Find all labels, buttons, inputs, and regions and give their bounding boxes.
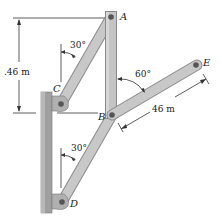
inclined-dimension-label: 46 m	[152, 104, 175, 114]
linkage-diagram: .46 m	[0, 0, 222, 221]
pin-c	[58, 101, 64, 107]
vertical-dimension	[17, 19, 21, 112]
angle-label-lower-30: 30°	[71, 143, 87, 153]
angle-label-upper-30: 30°	[70, 40, 86, 50]
pin-b	[109, 112, 115, 118]
label-c: C	[53, 83, 61, 94]
arrow-up-icon	[17, 19, 21, 25]
member-ab	[105, 11, 117, 119]
label-a: A	[119, 11, 127, 22]
member-db	[62, 115, 112, 202]
arrow-left-icon	[121, 124, 127, 129]
label-e: E	[202, 57, 211, 68]
pin-e	[193, 62, 199, 68]
pin-d	[59, 199, 65, 205]
pin-a	[108, 14, 114, 20]
vertical-dimension-label: .46 m	[4, 67, 30, 77]
arrow-down-icon	[17, 106, 21, 112]
label-d: D	[69, 198, 78, 209]
angle-label-60: 60°	[135, 69, 151, 79]
arrow-right-icon	[200, 79, 206, 84]
label-b: B	[97, 111, 105, 122]
member-ca	[61, 17, 111, 104]
